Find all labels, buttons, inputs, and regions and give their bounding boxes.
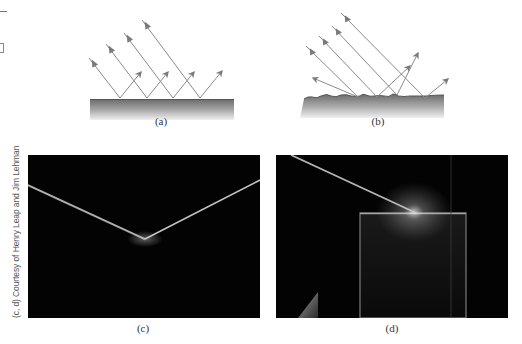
photo-credit: (c, d) Courtesy of Henry Leap and Jim Le… (11, 146, 21, 318)
photo-specular-beam (28, 155, 260, 318)
panel-d-label: (d) (377, 322, 407, 334)
photo-diffuse-beam (276, 155, 508, 318)
panel-b-label: (b) (363, 115, 393, 127)
panel-a-label: (a) (146, 115, 176, 127)
panel-c-label: (c) (128, 322, 158, 334)
